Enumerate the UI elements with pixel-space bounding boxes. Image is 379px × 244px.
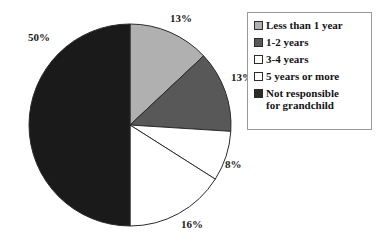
legend-swatch-icon [254, 89, 263, 98]
legend-swatch-icon [254, 38, 263, 47]
legend-item-less-than-1-year[interactable]: Less than 1 year [254, 19, 366, 31]
slice-label-5-years-or-more: 16% [181, 218, 203, 230]
legend-item-label-line1: Not responsible [266, 87, 339, 99]
legend-item-label: Not responsible for grandchild [266, 87, 339, 111]
pie-slice[interactable] [29, 24, 130, 226]
legend-item-5-years-or-more[interactable]: 5 years or more [254, 70, 366, 82]
pie-chart-figure: 13% 13% 8% 16% 50% Less than 1 year 1-2 … [0, 0, 379, 244]
legend-item-not-responsible[interactable]: Not responsible for grandchild [254, 87, 366, 111]
legend-swatch-icon [254, 55, 263, 64]
legend-item-label-line2: for grandchild [266, 99, 339, 111]
legend-swatch-icon [254, 21, 263, 30]
legend-item-label: Less than 1 year [266, 19, 343, 31]
legend-item-label: 1-2 years [266, 36, 308, 48]
pie-slices-group [29, 24, 231, 226]
legend-item-3-4-years[interactable]: 3-4 years [254, 53, 366, 65]
slice-label-3-4-years: 8% [225, 158, 242, 170]
legend-item-1-2-years[interactable]: 1-2 years [254, 36, 366, 48]
slice-label-less-than-1-year: 13% [170, 12, 192, 24]
chart-legend: Less than 1 year 1-2 years 3-4 years 5 y… [247, 12, 372, 130]
legend-item-label: 5 years or more [266, 70, 339, 82]
legend-swatch-icon [254, 72, 263, 81]
legend-item-label: 3-4 years [266, 53, 308, 65]
slice-label-not-responsible: 50% [28, 31, 50, 43]
